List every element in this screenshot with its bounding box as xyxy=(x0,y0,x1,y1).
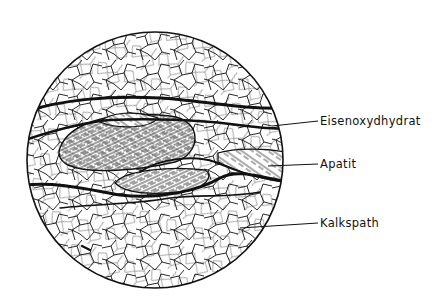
label-eisenoxydhydrat: Eisenoxydhydrat xyxy=(320,114,421,128)
label-kalkspath: Kalkspath xyxy=(320,216,379,230)
leader-eisenoxydhydrat xyxy=(272,121,318,126)
thin-section-diagram xyxy=(0,0,441,299)
field-of-view xyxy=(20,25,300,295)
label-apatit: Apatit xyxy=(320,157,356,171)
